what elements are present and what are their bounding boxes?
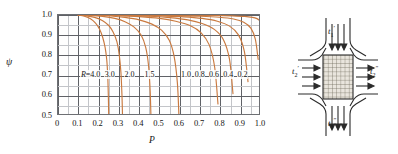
stream-label-left-inlet: t2′ xyxy=(292,64,299,80)
curve-label-1-0: 1.0 xyxy=(181,70,192,79)
stream-label-bottom-outlet: t1″ xyxy=(328,116,336,132)
curve-label-R-4-0: R=4.0 xyxy=(80,70,100,79)
x-tick-label: 1.0 xyxy=(245,119,275,128)
curve-label-3-0: 3.0 xyxy=(104,70,115,79)
y-tick-label: 0.6 xyxy=(0,90,52,99)
x-axis-label: P xyxy=(149,135,155,145)
chart-panel: ψ P 0.50.60.70.80.91.0 00.10.20.30.40.50… xyxy=(0,0,290,154)
y-tick-label: 1.0 xyxy=(0,10,52,19)
stream-label-top-inlet: t1′ xyxy=(328,24,335,40)
curve-2-0 xyxy=(78,15,151,115)
curve-label-0-6: 0.6 xyxy=(209,70,220,79)
exchanger-schematic-svg xyxy=(290,0,398,154)
curve-label-2-0: 2.0 xyxy=(124,70,135,79)
y-tick-label: 0.9 xyxy=(0,30,52,39)
curve-label-0-8: 0.8 xyxy=(194,70,205,79)
curve-R-4-0 xyxy=(78,15,108,115)
curve-label-0-2: 0.2 xyxy=(237,70,248,79)
curve-label-0-4: 0.4 xyxy=(223,70,234,79)
plot-area xyxy=(57,14,260,115)
y-tick-label: 0.7 xyxy=(0,70,52,79)
heat-exchanger-diagram: t1′t2′t2″t1″ xyxy=(290,0,398,154)
y-tick-label: 0.8 xyxy=(0,50,52,59)
curve-series-group xyxy=(58,15,260,115)
stream-label-right-outlet: t2″ xyxy=(370,64,378,80)
figure-root: ψ P 0.50.60.70.80.91.0 00.10.20.30.40.50… xyxy=(0,0,398,154)
curve-label-1-5: 1.5 xyxy=(144,70,155,79)
curve-0-8 xyxy=(78,15,233,94)
curve-1-5 xyxy=(78,15,179,115)
exchanger-core xyxy=(323,55,353,99)
